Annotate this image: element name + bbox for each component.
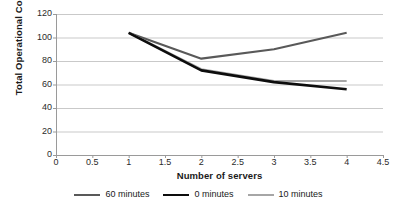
legend-label: 10 minutes bbox=[279, 190, 323, 199]
line-chart: Total Operational Cost 020406080100120 0… bbox=[0, 0, 397, 214]
x-tick-label: 0 bbox=[41, 158, 71, 167]
legend-line-swatch bbox=[248, 194, 274, 196]
x-tick-label: 4 bbox=[332, 158, 362, 167]
x-axis-title: Number of servers bbox=[56, 170, 383, 181]
series-line-60-minutes bbox=[129, 33, 347, 59]
legend-label: 60 minutes bbox=[105, 190, 149, 199]
chart-legend: 60 minutes0 minutes10 minutes bbox=[0, 190, 397, 199]
x-tick-label: 1.5 bbox=[150, 158, 180, 167]
legend-entry[interactable]: 10 minutes bbox=[248, 190, 323, 199]
x-tick-label: 2.5 bbox=[223, 158, 253, 167]
x-tick-label: 3 bbox=[259, 158, 289, 167]
plot-area bbox=[0, 0, 397, 214]
x-tick-label: 1 bbox=[114, 158, 144, 167]
x-tick-label: 4.5 bbox=[368, 158, 397, 167]
legend-label: 0 minutes bbox=[194, 190, 233, 199]
x-tick-label: 0.5 bbox=[77, 158, 107, 167]
legend-line-swatch bbox=[74, 194, 100, 196]
legend-line-swatch bbox=[163, 194, 189, 196]
legend-entry[interactable]: 60 minutes bbox=[74, 190, 149, 199]
x-tick-label: 2 bbox=[186, 158, 216, 167]
x-tick-label: 3.5 bbox=[295, 158, 325, 167]
legend-entry[interactable]: 0 minutes bbox=[163, 190, 233, 199]
